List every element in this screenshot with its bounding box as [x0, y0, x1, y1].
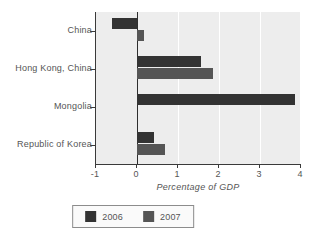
- x-tick-label: -1: [80, 169, 110, 179]
- x-tick-label: 3: [244, 169, 274, 179]
- x-tick-mark: [300, 164, 301, 168]
- x-tick-mark: [218, 164, 219, 168]
- bar: [137, 94, 295, 105]
- x-tick-label: 1: [162, 169, 192, 179]
- bar-group: [96, 126, 300, 164]
- category-label: Hong Kong, China: [0, 63, 92, 73]
- category-label: Republic of Korea: [0, 139, 92, 149]
- bar-group: [96, 50, 300, 88]
- plot-wrapper: -101234ChinaHong Kong, ChinaMongoliaRepu…: [0, 0, 320, 180]
- category-label: Mongolia: [0, 101, 92, 111]
- x-tick-label: 4: [285, 169, 315, 179]
- bar: [137, 132, 154, 143]
- bar: [137, 68, 213, 79]
- chart-figure: -101234ChinaHong Kong, ChinaMongoliaRepu…: [0, 0, 320, 238]
- bar: [112, 18, 137, 29]
- bar: [137, 30, 144, 41]
- x-tick-mark: [259, 164, 260, 168]
- plot-area: [95, 12, 300, 164]
- x-tick-mark: [177, 164, 178, 168]
- x-axis-label: Percentage of GDP: [95, 182, 301, 192]
- x-tick-label: 2: [203, 169, 233, 179]
- bar: [137, 144, 165, 155]
- gridline: [301, 12, 302, 164]
- x-tick-mark: [95, 164, 96, 168]
- chart-legend: 20062007: [72, 205, 194, 228]
- category-label: China: [0, 25, 92, 35]
- x-tick-label: 0: [121, 169, 151, 179]
- legend-color-swatch: [143, 211, 154, 222]
- legend-item: 2006: [85, 211, 123, 222]
- bar-group: [96, 12, 300, 50]
- legend-item: 2007: [143, 211, 181, 222]
- bar-group: [96, 88, 300, 126]
- x-axis-line: [95, 164, 301, 165]
- x-tick-mark: [136, 164, 137, 168]
- bar: [137, 56, 201, 67]
- legend-color-swatch: [85, 211, 96, 222]
- legend-label: 2006: [102, 212, 123, 222]
- legend-label: 2007: [160, 212, 181, 222]
